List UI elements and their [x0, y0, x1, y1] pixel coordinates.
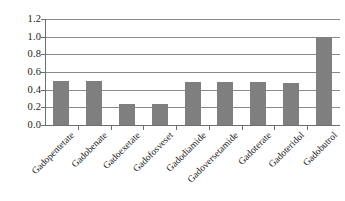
x-axis-labels: GadopentetateGadobenateGadoexetateGadofo… [45, 130, 340, 201]
bar [119, 104, 135, 125]
y-axis-tick [41, 54, 45, 55]
bar [283, 83, 299, 125]
y-axis-tick-label: 1.0 [1, 31, 41, 42]
gridline [45, 54, 340, 55]
y-axis-tick [41, 72, 45, 73]
y-axis-tick [41, 37, 45, 38]
gridline [45, 19, 340, 20]
bar [152, 104, 168, 125]
y-axis-tick [41, 19, 45, 20]
x-axis-tick-label: Gadopentetate [30, 130, 76, 176]
plot-area [45, 19, 340, 125]
bar-chart: 0.00.20.40.60.81.01.2 GadopentetateGadob… [0, 0, 345, 201]
y-axis-tick-label: 0.4 [1, 84, 41, 95]
x-axis-tick-label: Gadobutrol [301, 130, 339, 168]
x-axis-label-wrapper: Gadobutrol [301, 130, 339, 168]
y-axis-tick-label: 0.0 [1, 120, 41, 131]
x-axis-line [45, 125, 340, 126]
bar [250, 82, 266, 125]
bar [86, 81, 102, 125]
y-axis-tick [41, 107, 45, 108]
gridline [45, 37, 340, 38]
y-axis-tick-label: 1.2 [1, 14, 41, 25]
bar [217, 82, 233, 125]
y-axis-tick-label: 0.2 [1, 102, 41, 113]
gridline [45, 72, 340, 73]
y-axis-line [45, 19, 46, 126]
x-axis-label-wrapper: Gadopentetate [30, 130, 76, 176]
bar [185, 82, 201, 125]
y-axis-tick-label: 0.6 [1, 67, 41, 78]
bar [316, 37, 332, 125]
y-axis-tick-label: 0.8 [1, 49, 41, 60]
bar [53, 81, 69, 125]
y-axis-tick [41, 90, 45, 91]
y-axis-labels: 0.00.20.40.60.81.01.2 [0, 19, 41, 125]
